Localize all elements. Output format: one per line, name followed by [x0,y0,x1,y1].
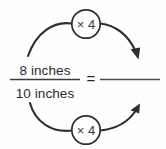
top-arc-right-segment [101,24,136,51]
equals-sign: = [87,70,96,87]
proportion-diagram: × 4 8 inches 10 inches = × 4 [0,0,166,149]
diagram-canvas: × 4 8 inches 10 inches = × 4 [0,0,166,149]
bottom-operation-badge: × 4 [72,116,100,144]
top-operation-label: × 4 [77,17,95,32]
top-arc-left-segment [28,23,72,56]
top-arrowhead-icon [131,48,141,60]
left-fraction: 8 inches 10 inches [10,63,80,101]
left-fraction-denominator: 10 inches [16,86,75,101]
bottom-arc-left-segment [30,103,72,131]
top-operation-badge: × 4 [72,10,100,38]
left-fraction-numerator: 8 inches [19,63,70,78]
bottom-arrowhead-icon [131,104,141,114]
bottom-operation-label: × 4 [77,123,95,138]
bottom-arc-right-segment [100,111,136,131]
